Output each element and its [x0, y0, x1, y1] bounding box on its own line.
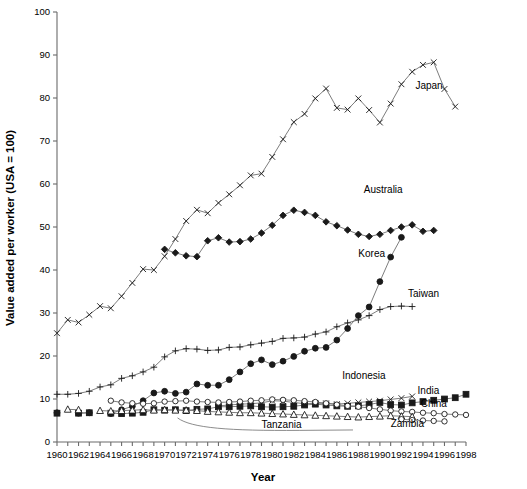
marker-circle-filled	[388, 254, 394, 260]
marker-x-cross	[431, 59, 437, 65]
marker-circle-filled	[291, 354, 297, 360]
x-tick-label: 1960	[46, 449, 67, 460]
marker-plus	[398, 303, 405, 310]
marker-circle-open	[313, 399, 318, 404]
series-label-tanzania: Tanzania	[262, 419, 302, 430]
series-line	[165, 210, 434, 256]
x-tick-label: 1972	[176, 449, 197, 460]
x-tick-label: 1996	[434, 449, 455, 460]
marker-diamond	[420, 228, 427, 235]
marker-x-cross	[399, 81, 405, 87]
marker-square-filled	[280, 404, 286, 410]
x-tick-label: 1986	[326, 449, 347, 460]
marker-circle-open	[130, 401, 135, 406]
marker-diamond	[387, 227, 394, 234]
marker-circle-filled	[226, 377, 232, 383]
x-tick-label: 1964	[89, 449, 110, 460]
marker-plus	[75, 390, 82, 397]
series-label-zambia: Zambia	[391, 418, 425, 429]
marker-circle-open	[151, 401, 156, 406]
marker-circle-filled	[280, 358, 286, 364]
marker-plus	[312, 331, 319, 338]
y-tick-label: 10	[39, 393, 50, 404]
marker-circle-open	[420, 410, 425, 415]
marker-x-cross	[355, 96, 361, 102]
line-chart: 0102030405060708090100 19601962196419661…	[0, 0, 527, 489]
marker-circle-filled	[151, 390, 157, 396]
marker-x-cross	[269, 154, 275, 160]
x-axis-title: Year	[251, 471, 276, 483]
y-tick-label: 20	[39, 350, 50, 361]
series-label-australia: Australia	[364, 184, 403, 195]
marker-circle-open	[248, 398, 253, 403]
marker-circle-open	[366, 405, 371, 410]
marker-plus	[108, 382, 115, 389]
marker-circle-open	[334, 402, 339, 407]
marker-square-filled	[463, 391, 469, 397]
marker-circle-filled	[377, 279, 383, 285]
marker-circle-open	[431, 418, 436, 423]
marker-circle-open	[323, 401, 328, 406]
marker-plus	[269, 338, 276, 345]
marker-circle-filled	[312, 345, 318, 351]
marker-circle-open	[237, 399, 242, 404]
series-label-taiwan: Taiwan	[408, 288, 439, 299]
marker-plus	[215, 347, 222, 354]
marker-plus	[366, 312, 373, 319]
x-tick-label: 1992	[391, 449, 412, 460]
marker-x-cross	[291, 119, 297, 125]
x-tick-label: 1980	[262, 449, 283, 460]
series-australia	[161, 207, 437, 260]
marker-square-filled	[388, 402, 394, 408]
marker-x-cross	[194, 207, 200, 213]
y-axis-title: Value added per worker (USA = 100)	[4, 130, 16, 326]
x-tick-label: 1990	[369, 449, 390, 460]
marker-circle-open	[183, 398, 188, 403]
y-tick-label: 60	[39, 178, 50, 189]
marker-circle-filled	[259, 357, 265, 363]
x-tick-label: 1970	[154, 449, 175, 460]
marker-x-cross	[86, 312, 92, 318]
x-tick-label: 1994	[412, 449, 433, 460]
series-label-india: India	[418, 385, 440, 396]
marker-x-cross	[65, 317, 71, 323]
marker-x-cross	[409, 69, 415, 75]
marker-circle-open	[259, 398, 264, 403]
marker-diamond	[204, 237, 211, 244]
marker-x-cross	[216, 200, 222, 206]
x-tick-label: 1974	[197, 449, 218, 460]
marker-circle-open	[442, 419, 447, 424]
marker-x-cross	[323, 86, 329, 92]
marker-x-cross	[452, 104, 458, 110]
marker-x-cross	[172, 236, 178, 242]
marker-diamond	[366, 233, 373, 240]
marker-circle-open	[377, 407, 382, 412]
marker-circle-open	[431, 410, 436, 415]
marker-circle-filled	[194, 381, 200, 387]
marker-x-cross	[237, 182, 243, 188]
marker-diamond	[344, 227, 351, 234]
series-line	[57, 306, 412, 394]
marker-plus	[258, 340, 265, 347]
marker-diamond	[226, 239, 233, 246]
marker-plus	[323, 329, 330, 336]
marker-diamond	[258, 230, 265, 237]
x-tick-label: 1962	[68, 449, 89, 460]
marker-circle-open	[216, 400, 221, 405]
marker-diamond	[398, 224, 405, 231]
marker-plus	[172, 348, 179, 355]
marker-circle-open	[194, 399, 199, 404]
marker-plus	[64, 391, 71, 398]
marker-x-cross	[129, 280, 135, 286]
marker-circle-open	[442, 411, 447, 416]
chart-container: 0102030405060708090100 19601962196419661…	[0, 0, 527, 489]
marker-square-filled	[291, 403, 297, 409]
y-tick-label: 70	[39, 135, 50, 146]
marker-circle-filled	[248, 361, 254, 367]
marker-diamond	[194, 253, 201, 260]
marker-square-filled	[399, 402, 405, 408]
marker-plus	[129, 372, 136, 379]
marker-circle-open	[463, 412, 468, 417]
marker-plus	[86, 388, 93, 395]
y-tick-label: 50	[39, 221, 50, 232]
